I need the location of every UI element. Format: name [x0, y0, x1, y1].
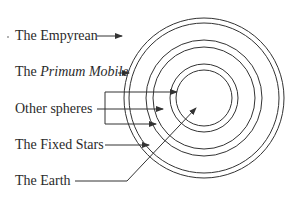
sphere-circle-0	[124, 18, 284, 178]
label-earth: The Earth	[15, 173, 71, 189]
sphere-circle-4	[170, 64, 238, 132]
label-primum-mobile-italic: Primum Mobile	[40, 64, 128, 79]
sphere-circle-3	[153, 47, 255, 149]
label-other-spheres: Other spheres	[15, 101, 92, 117]
sphere-circle-5	[176, 70, 232, 126]
label-fixed-stars-text: The Fixed Stars	[15, 137, 104, 152]
label-primum-mobile: The Primum Mobile	[15, 64, 129, 80]
label-fixed-stars: The Fixed Stars	[15, 137, 104, 153]
sphere-circle-1	[129, 23, 279, 173]
label-other-spheres-text: Other spheres	[15, 101, 92, 116]
label-empyrean: The Empyrean	[15, 28, 98, 44]
label-primum-mobile-prefix: The	[15, 64, 40, 79]
cosmos-diagram: The Empyrean The Primum Mobile Other sph…	[0, 0, 298, 202]
concentric-spheres	[124, 18, 284, 178]
sphere-circle-2	[146, 40, 262, 156]
scan-speck	[7, 36, 9, 38]
label-earth-text: The Earth	[15, 173, 71, 188]
label-empyrean-text: The Empyrean	[15, 28, 98, 43]
